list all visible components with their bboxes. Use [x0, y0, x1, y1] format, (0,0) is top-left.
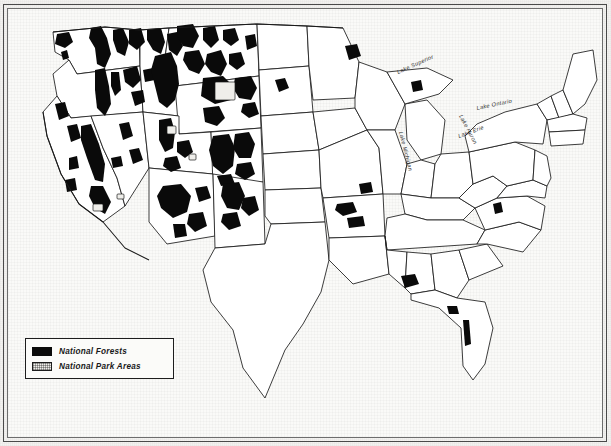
page-caption: of Arizona and Oklahoma were still fores…: [0, 0, 611, 1]
map-page: of Arizona and Oklahoma were still fores…: [0, 0, 611, 446]
legend-label-national-park-areas: National Park Areas: [59, 362, 141, 371]
legend-item-national-park-areas: National Park Areas: [32, 359, 173, 373]
map-legend: National Forests National Park Areas: [25, 338, 174, 379]
legend-item-national-forests: National Forests: [32, 344, 173, 358]
national-forest-swatch-icon: [32, 347, 52, 356]
national-park-swatch-icon: [32, 362, 52, 371]
lake-label-ontario: Lake Ontario: [476, 98, 513, 111]
legend-label-national-forests: National Forests: [59, 347, 127, 356]
